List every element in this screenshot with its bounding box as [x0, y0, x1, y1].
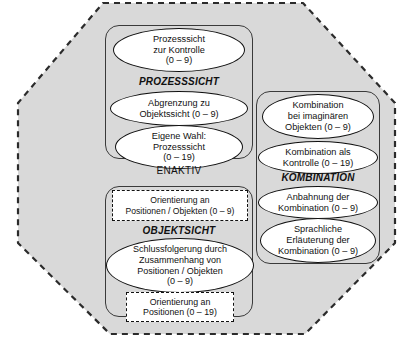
node-label: Prozesssicht zur Kontrolle (0 – 9) [150, 34, 208, 67]
node-orientierung-an-positionen[interactable]: Orientierung an Positionen (0 – 19) [126, 292, 234, 322]
group-label-kombination: KOMBINATION [256, 172, 380, 183]
node-abgrenzung-zu-objektssicht[interactable]: Abgrenzung zu Objektssicht (0 – 9) [110, 91, 248, 126]
node-label: Orientierung an Positionen / Objekten (0… [123, 195, 238, 215]
node-label: Schlussfolgerung durch Zusammenhang von … [130, 244, 230, 286]
group-label-prozesssicht: PROZESSSICHT [105, 76, 253, 87]
node-kombination-bei-imaginaeren-objekten[interactable]: Kombination bei imaginären Objekten (0 –… [262, 94, 374, 139]
node-schlussfolgerung-zusammenhang[interactable]: Schlussfolgerung durch Zusammenhang von … [106, 238, 254, 293]
node-prozesssicht-zur-kontrolle[interactable]: Prozesssicht zur Kontrolle (0 – 9) [113, 28, 245, 72]
node-label: Orientierung an Positionen (0 – 19) [140, 297, 220, 318]
node-label: Eigene Wahl: Prozesssicht (0 – 19) [149, 131, 209, 164]
node-label: Abgrenzung zu Objektssicht (0 – 9) [136, 98, 221, 120]
group-label-objektsicht: OBJEKTSICHT [105, 225, 253, 236]
node-anbahnung-der-kombination[interactable]: Anbahnung der Kombination (0 – 9) [258, 186, 378, 219]
node-sprachliche-erlaeuterung-kombination[interactable]: Sprachliche Erläuterung der Kombination … [260, 218, 376, 263]
node-label: Anbahnung der Kombination (0 – 9) [275, 192, 361, 214]
node-orientierung-an-positionen-objekten[interactable]: Orientierung an Positionen / Objekten (0… [112, 190, 248, 221]
node-label: Kombination als Kontrolle (0 – 19) [280, 147, 356, 169]
node-label: Kombination bei imaginären Objekten (0 –… [282, 100, 354, 133]
node-label: Sprachliche Erläuterung der Kombination … [275, 224, 361, 257]
node-eigene-wahl-prozesssicht[interactable]: Eigene Wahl: Prozesssicht (0 – 19) [115, 125, 243, 169]
mode-label-enaktiv: ENAKTIV [105, 165, 253, 176]
diagram-canvas: Prozesssicht zur Kontrolle (0 – 9) PROZE… [0, 0, 411, 348]
node-kombination-als-kontrolle[interactable]: Kombination als Kontrolle (0 – 19) [258, 141, 378, 174]
